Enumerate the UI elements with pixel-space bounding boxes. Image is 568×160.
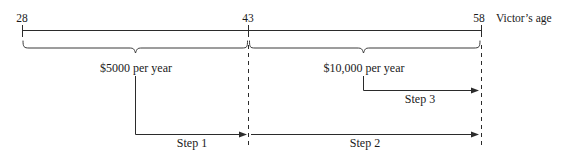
step1-label: Step 1 bbox=[177, 136, 207, 150]
axis-caption: Victor’s age bbox=[496, 12, 552, 25]
step3-path bbox=[364, 76, 474, 91]
step2-label: Step 2 bbox=[350, 136, 380, 150]
tick-label-end: 58 bbox=[473, 12, 485, 24]
brace-first-interval bbox=[23, 41, 248, 53]
step1-arrowhead-icon bbox=[239, 131, 247, 137]
step3-arrowhead-icon bbox=[471, 87, 479, 93]
tick-label-middle: 43 bbox=[242, 12, 254, 24]
brace-second-interval bbox=[250, 41, 481, 53]
step2-arrowhead-icon bbox=[471, 131, 479, 137]
step1-path bbox=[136, 76, 242, 135]
timeline-diagram: 28 43 58 Victor’s age $5000 per year $10… bbox=[0, 0, 568, 160]
tick-label-start: 28 bbox=[16, 12, 28, 24]
rate-label-first: $5000 per year bbox=[100, 61, 172, 75]
step3-label: Step 3 bbox=[405, 92, 435, 106]
timeline-svg: 28 43 58 Victor’s age $5000 per year $10… bbox=[0, 0, 568, 160]
rate-label-second: $10,000 per year bbox=[324, 61, 405, 75]
